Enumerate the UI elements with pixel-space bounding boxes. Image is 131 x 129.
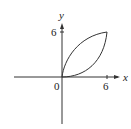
x-tick-label: 6 [103, 80, 109, 92]
x-axis-label: x [122, 71, 128, 83]
lower-curve [62, 32, 107, 77]
y-tick-label: 6 [51, 26, 57, 38]
y-axis-label: y [58, 9, 64, 21]
y-axis-arrow-icon [60, 23, 64, 29]
origin-label: 0 [54, 80, 60, 92]
x-axis-arrow-icon [114, 75, 120, 79]
diagram: y x 6 6 0 [0, 0, 131, 129]
